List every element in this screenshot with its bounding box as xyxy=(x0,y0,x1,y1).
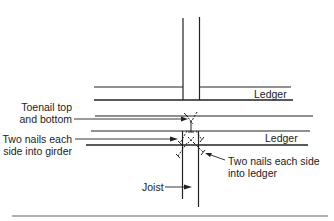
label-lower-ledger: Ledger xyxy=(265,132,298,144)
label-upper-ledger: Ledger xyxy=(254,88,287,100)
toenail-arrowhead xyxy=(181,117,188,122)
label-ledger-nails-line1: Two nails each side xyxy=(228,155,320,167)
label-girder-line2: side into girder xyxy=(3,145,72,157)
ledger-arrowhead xyxy=(205,153,212,157)
label-toenail-line1: Toenail top xyxy=(21,101,72,113)
joist-arrowhead xyxy=(184,185,192,190)
girder-arrowhead xyxy=(170,137,178,142)
label-toenail-line2: and bottom xyxy=(19,113,72,125)
label-ledger-nails-line2: into ledger xyxy=(228,167,277,179)
label-joist: Joist xyxy=(142,181,164,193)
label-girder-line1: Two nails each xyxy=(3,133,72,145)
